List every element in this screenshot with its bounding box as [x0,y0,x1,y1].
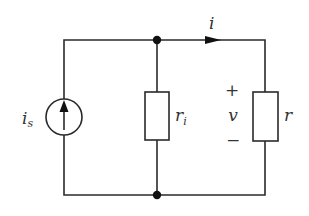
voltage-label: v [228,105,238,125]
internal-resistor [145,92,169,140]
load-resistor-label: r [284,105,293,125]
bottom-junction-node [153,191,161,199]
current-label: i [209,13,214,33]
circuit-diagram: i is ri r + v − [0,0,309,216]
current-source [46,99,82,135]
wire-bottom-right [157,141,265,195]
wire-top-right [157,40,265,92]
load-resistor [253,92,278,141]
internal-resistor-label: ri [175,105,187,128]
current-arrow-icon [205,36,221,44]
voltage-minus-sign: − [226,130,240,150]
wire-left-top [64,40,157,99]
current-source-label: is [22,108,33,130]
voltage-plus-sign: + [225,80,239,100]
top-junction-node [153,36,161,44]
wire-left-bottom [64,135,157,195]
